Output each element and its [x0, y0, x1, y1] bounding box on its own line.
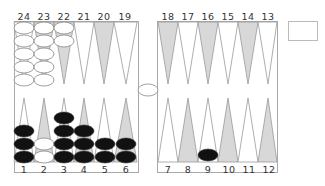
white-checker[interactable] — [14, 35, 34, 47]
white-checker[interactable] — [34, 61, 54, 73]
white-checker[interactable] — [54, 35, 74, 47]
bar-white-checker[interactable] — [138, 84, 158, 96]
black-checker[interactable] — [116, 138, 136, 150]
black-checker[interactable] — [74, 151, 94, 163]
point-label-2: 2 — [34, 164, 54, 175]
white-checker[interactable] — [34, 151, 54, 163]
black-checker[interactable] — [95, 138, 115, 150]
white-checker[interactable] — [14, 22, 34, 34]
black-checker[interactable] — [14, 125, 34, 137]
white-checker[interactable] — [34, 48, 54, 60]
point-label-1: 1 — [14, 164, 34, 175]
point-label-4: 4 — [74, 164, 94, 175]
point-label-8: 8 — [178, 164, 198, 175]
black-checker[interactable] — [74, 138, 94, 150]
point-label-11: 11 — [239, 164, 259, 175]
black-checker[interactable] — [116, 151, 136, 163]
black-checker[interactable] — [54, 151, 74, 163]
black-checker[interactable] — [198, 149, 218, 161]
black-checker[interactable] — [95, 151, 115, 163]
white-checker[interactable] — [34, 74, 54, 86]
black-checker[interactable] — [54, 138, 74, 150]
black-checker[interactable] — [54, 125, 74, 137]
point-label-10: 10 — [219, 164, 239, 175]
black-checker[interactable] — [54, 112, 74, 124]
black-checker[interactable] — [14, 151, 34, 163]
white-checker[interactable] — [54, 22, 74, 34]
black-checker[interactable] — [14, 138, 34, 150]
white-checker[interactable] — [14, 61, 34, 73]
white-checker[interactable] — [34, 22, 54, 34]
point-label-3: 3 — [54, 164, 74, 175]
backgammon-board — [0, 0, 325, 186]
white-checker[interactable] — [34, 138, 54, 150]
white-checker[interactable] — [14, 48, 34, 60]
point-label-6: 6 — [116, 164, 136, 175]
point-label-7: 7 — [158, 164, 178, 175]
black-checker[interactable] — [74, 125, 94, 137]
white-checker[interactable] — [34, 35, 54, 47]
dice-box[interactable] — [289, 22, 318, 41]
point-label-9: 9 — [198, 164, 218, 175]
point-label-12: 12 — [259, 164, 279, 175]
point-label-5: 5 — [95, 164, 115, 175]
white-checker[interactable] — [14, 74, 34, 86]
